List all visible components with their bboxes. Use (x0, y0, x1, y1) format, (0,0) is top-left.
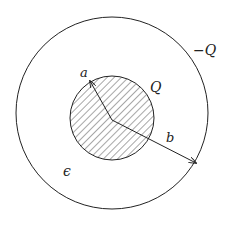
label-b: b (166, 130, 174, 145)
label-minus-Q: −Q (193, 42, 217, 58)
label-epsilon: ϵ (63, 163, 71, 179)
label-Q: Q (150, 79, 162, 95)
label-a: a (80, 65, 88, 80)
capacitor-diagram: a Q −Q b ϵ (0, 0, 228, 228)
diagram-canvas: a Q −Q b ϵ (0, 0, 228, 228)
inner-conductor-circle (70, 76, 154, 160)
